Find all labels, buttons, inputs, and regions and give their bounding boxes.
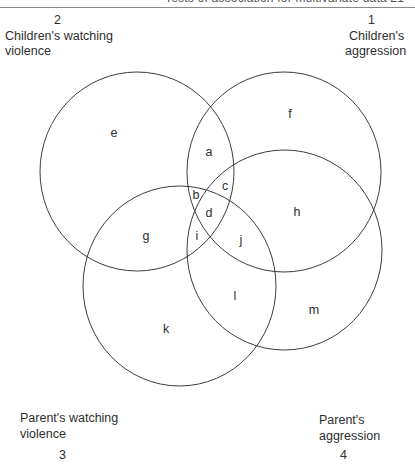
circle-variable-3 — [83, 186, 276, 386]
circle-variable-1 — [187, 72, 381, 272]
venn-diagram: abcdefghijklm — [0, 0, 415, 470]
circle-variable-4 — [187, 150, 382, 350]
region-label-j: j — [239, 233, 243, 247]
venn-region-labels: abcdefghijklm — [111, 107, 320, 336]
region-label-a: a — [206, 145, 213, 159]
region-label-k: k — [163, 322, 170, 336]
venn-circles — [40, 72, 382, 386]
region-label-i: i — [196, 229, 199, 243]
circle-variable-2 — [40, 72, 234, 271]
region-label-c: c — [222, 179, 228, 193]
region-label-h: h — [294, 205, 301, 219]
region-label-d: d — [206, 206, 213, 220]
region-label-e: e — [111, 126, 118, 140]
region-label-b: b — [193, 188, 200, 202]
region-label-f: f — [288, 107, 292, 121]
region-label-m: m — [309, 303, 319, 317]
region-label-g: g — [143, 229, 150, 243]
region-label-l: l — [234, 289, 237, 303]
